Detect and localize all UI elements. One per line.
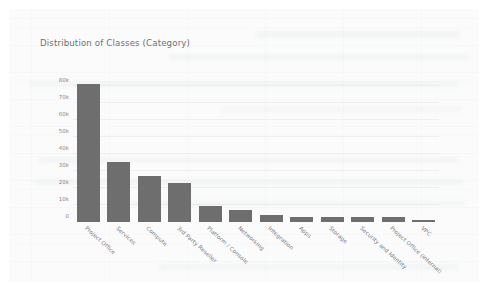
- x-axis-tick-label: Project Office (internal): [389, 225, 443, 275]
- chart-card: Distribution of Classes (Category) 010k2…: [9, 9, 479, 282]
- bar-group[interactable]: Project Office (internal): [378, 77, 409, 222]
- y-axis-tick-label: 80k: [59, 77, 69, 83]
- y-axis-tick-label: 70k: [59, 94, 69, 100]
- bleedthrough-smudge: [255, 31, 460, 38]
- x-axis-tick-label: Integration: [267, 225, 295, 251]
- bleedthrough-smudge: [169, 54, 469, 60]
- bar-series: Project OfficeServicesCompute3rd Party R…: [73, 77, 439, 222]
- bar-group[interactable]: Compute: [134, 77, 165, 222]
- bar[interactable]: [382, 217, 405, 222]
- bar[interactable]: [107, 162, 130, 222]
- bar-group[interactable]: Security and Identity: [348, 77, 379, 222]
- bar-group[interactable]: Networking: [226, 77, 257, 222]
- y-axis-tick-label: 50k: [59, 128, 69, 134]
- bar[interactable]: [290, 217, 313, 222]
- x-axis-tick-label: Networking: [237, 225, 266, 252]
- bar-group[interactable]: Platform / Console: [195, 77, 226, 222]
- bar[interactable]: [321, 217, 344, 222]
- chart-title: Distribution of Classes (Category): [40, 38, 190, 48]
- x-axis-tick-label: Apps: [298, 225, 313, 239]
- x-axis-tick-label: Compute: [145, 225, 168, 247]
- bar-group[interactable]: Project Office: [73, 77, 104, 222]
- y-axis-tick-label: 0: [65, 213, 69, 219]
- bar-group[interactable]: 3rd Party Reseller: [165, 77, 196, 222]
- screenshot-root: Distribution of Classes (Category) 010k2…: [0, 0, 488, 291]
- bar-group[interactable]: Integration: [256, 77, 287, 222]
- y-axis-tick-label: 30k: [59, 162, 69, 168]
- bar-group[interactable]: Apps: [287, 77, 318, 222]
- bar[interactable]: [168, 183, 191, 222]
- bar[interactable]: [138, 176, 161, 222]
- x-axis-tick-label: Storage: [328, 225, 349, 245]
- y-axis-tick-label: 20k: [59, 179, 69, 185]
- plot-area: 010k20k30k40k50k60k70k80k Project Office…: [73, 77, 439, 222]
- bar[interactable]: [77, 84, 100, 222]
- y-axis-tick-label: 10k: [59, 196, 69, 202]
- y-axis-tick-label: 40k: [59, 145, 69, 151]
- x-axis-tick-label: Project Office: [84, 225, 117, 255]
- bar-group[interactable]: VPC: [409, 77, 440, 222]
- x-axis-tick-label: Services: [115, 225, 137, 246]
- y-axis-tick-label: 60k: [59, 111, 69, 117]
- bar[interactable]: [260, 215, 283, 222]
- bleedthrough-smudge: [159, 264, 459, 270]
- bar-group[interactable]: Services: [104, 77, 135, 222]
- bar[interactable]: [199, 206, 222, 222]
- bar[interactable]: [412, 220, 435, 222]
- bar-group[interactable]: Storage: [317, 77, 348, 222]
- bar[interactable]: [229, 210, 252, 222]
- x-axis-tick-label: VPC: [420, 225, 432, 237]
- bar[interactable]: [351, 217, 374, 222]
